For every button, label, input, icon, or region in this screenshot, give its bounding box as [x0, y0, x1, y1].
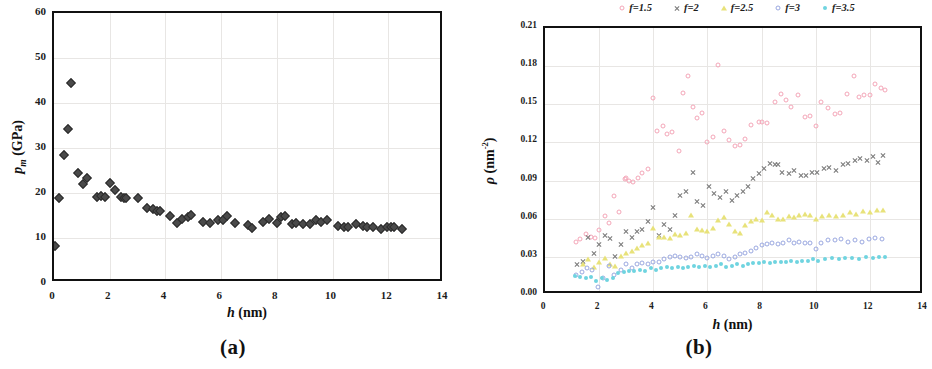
x-tick-label: 12	[381, 290, 392, 301]
data-point-diamond	[155, 206, 165, 216]
data-point-diamond	[264, 214, 274, 224]
data-point-ring	[873, 235, 878, 240]
data-point-ring	[867, 93, 872, 98]
data-point-cross	[729, 197, 735, 203]
data-point-ring	[574, 272, 579, 277]
data-point-cross	[580, 258, 586, 264]
data-point-triangle	[840, 212, 846, 217]
data-point-ring	[764, 242, 769, 247]
data-point-ring	[624, 176, 629, 181]
data-point-diamond	[333, 221, 343, 231]
data-point-cross	[756, 170, 762, 176]
data-point-cross	[875, 159, 881, 165]
data-point-triangle	[596, 259, 602, 264]
data-point-diamond	[343, 222, 353, 232]
legend-item-f15[interactable]: f=1.5	[619, 2, 652, 13]
data-point-triangle	[813, 216, 819, 221]
data-point-dot	[789, 259, 793, 263]
data-point-diamond	[287, 219, 297, 229]
data-point-cross	[650, 204, 656, 210]
data-point-cross	[623, 228, 629, 234]
data-point-cross	[852, 157, 858, 163]
data-point-dot	[816, 259, 820, 263]
y-tick-label: 0.00	[497, 288, 537, 298]
data-point-diamond	[148, 204, 158, 214]
legend-item-f2[interactable]: f=2	[674, 2, 699, 13]
data-point-ring	[640, 170, 645, 175]
data-point-dot	[773, 260, 777, 264]
data-point-ring	[776, 5, 781, 10]
data-point-ring	[635, 262, 640, 267]
data-point-ring	[802, 240, 807, 245]
data-point-ring	[786, 238, 791, 243]
data-point-dot	[823, 257, 827, 261]
data-point-diamond	[258, 217, 268, 227]
data-point-dot	[857, 257, 861, 261]
data-point-ring	[839, 237, 844, 242]
x-axis-title-a: h (nm)	[52, 305, 442, 321]
data-point-dot	[638, 268, 642, 272]
data-point-diamond	[198, 217, 208, 227]
x-tick-label: 6	[216, 290, 222, 301]
data-point-ring	[626, 178, 631, 183]
data-point-ring	[618, 267, 623, 272]
data-point-triangle	[715, 217, 721, 222]
data-point-cross	[667, 226, 673, 232]
x-tick-label: 4	[161, 290, 167, 301]
x-tick-label: 6	[703, 302, 708, 312]
data-point-triangle	[726, 221, 732, 226]
legend-label: f=1.5	[629, 2, 652, 13]
data-point-triangle	[764, 210, 770, 215]
data-point-triangle	[721, 5, 727, 10]
data-point-dot	[703, 264, 707, 268]
data-point-cross	[607, 235, 613, 241]
data-point-ring	[737, 142, 742, 147]
data-point-triangle	[748, 219, 754, 224]
data-point-triangle	[710, 225, 716, 230]
data-point-dot	[800, 259, 804, 263]
legend-item-f25[interactable]: f=2.5	[721, 2, 754, 13]
data-point-dot	[795, 260, 799, 264]
data-point-triangle	[847, 210, 853, 215]
data-point-diamond	[177, 214, 187, 224]
data-point-cross	[814, 169, 820, 175]
y-tick-label: 50	[6, 51, 46, 62]
data-point-cross	[798, 172, 804, 178]
data-point-ring	[678, 254, 683, 259]
data-point-dot	[697, 265, 701, 269]
data-point-cross	[809, 169, 815, 175]
data-point-diamond	[100, 192, 110, 202]
data-point-ring	[640, 261, 645, 266]
data-point-triangle	[769, 212, 775, 217]
data-point-ring	[716, 62, 721, 67]
data-point-triangle	[786, 214, 792, 219]
data-point-ring	[694, 252, 699, 257]
data-point-ring	[862, 93, 867, 98]
data-point-cross	[711, 190, 717, 196]
data-point-diamond	[78, 179, 88, 189]
data-point-ring	[859, 239, 864, 244]
data-point-triangle	[694, 226, 700, 231]
data-point-dot	[823, 6, 827, 10]
data-point-diamond	[389, 222, 399, 232]
data-point-diamond	[121, 193, 131, 203]
data-point-diamond	[397, 224, 407, 234]
data-point-diamond	[230, 218, 240, 228]
data-point-ring	[748, 122, 753, 127]
data-point-ring	[683, 256, 688, 261]
legend-marker-icon	[822, 5, 828, 11]
data-point-cross	[803, 172, 809, 178]
y-tick-label: 0.03	[497, 250, 537, 260]
data-point-cross	[833, 167, 839, 173]
data-point-ring	[819, 99, 824, 104]
data-point-ring	[832, 112, 837, 117]
data-point-cross	[677, 192, 683, 198]
data-point-dot	[654, 268, 658, 272]
data-point-cross	[845, 160, 851, 166]
legend-item-f35[interactable]: f=3.5	[822, 2, 855, 13]
data-point-diamond	[368, 222, 378, 232]
data-point-ring	[677, 149, 682, 154]
legend-item-f3[interactable]: f=3	[775, 2, 800, 13]
data-point-diamond	[358, 221, 368, 231]
data-point-triangle	[607, 262, 613, 267]
